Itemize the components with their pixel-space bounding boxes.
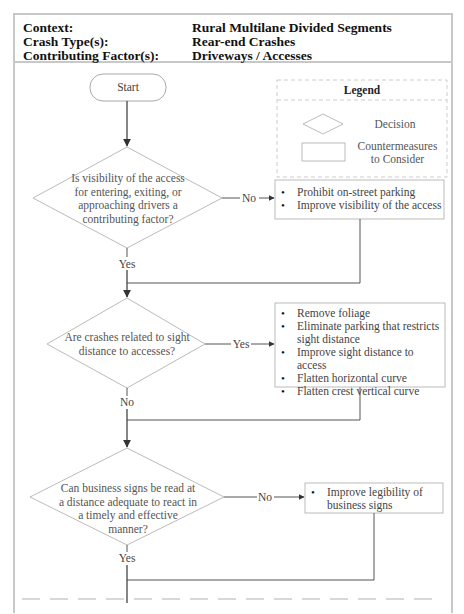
question-line: for entering, exiting, or [48, 186, 208, 200]
question-line: a distance adequate to react in [40, 496, 216, 510]
countermeasure-list-3: Improve legibility of business signs [308, 486, 443, 512]
decision-1-question: Is visibility of the access for entering… [48, 172, 208, 226]
legend-countermeasure-line-2: to Consider [350, 153, 445, 166]
start-label: Start [117, 81, 140, 93]
legend-countermeasure-label: Countermeasures to Consider [350, 140, 445, 166]
question-line: distance to accesses? [52, 345, 202, 359]
legend-countermeasure-icon [302, 143, 345, 161]
question-line: manner? [40, 523, 216, 537]
countermeasure-item: Improve sight distance to access [278, 346, 444, 372]
decision-1-yes-label: Yes [119, 258, 136, 270]
legend-decision-icon [303, 114, 343, 134]
decision-3-no-label: No [258, 491, 272, 503]
decision-3-question: Can business signs be read at a distance… [40, 482, 216, 536]
countermeasure-list-1: Prohibit on-street parking Improve visib… [278, 186, 444, 212]
decision-3-yes-label: Yes [119, 552, 136, 564]
countermeasure-item: Improve legibility of business signs [308, 486, 443, 512]
countermeasure-item: Remove foliage [278, 307, 444, 320]
countermeasure-item: Flatten horizontal curve [278, 372, 444, 385]
legend-title: Legend [277, 84, 447, 97]
decision-2-question: Are crashes related to sight distance to… [52, 331, 202, 358]
legend-countermeasure-line-1: Countermeasures [350, 140, 445, 153]
countermeasure-item: Eliminate parking that restricts sight d… [278, 320, 444, 346]
question-line: a timely and effective [40, 509, 216, 523]
question-line: Is visibility of the access [48, 172, 208, 186]
decision-1-no-label: No [242, 192, 256, 204]
decision-2-yes-label: Yes [233, 338, 250, 350]
decision-2-no-label: No [120, 396, 134, 408]
question-line: Are crashes related to sight [52, 331, 202, 345]
countermeasure-list-2: Remove foliage Eliminate parking that re… [278, 307, 444, 398]
countermeasure-item: Prohibit on-street parking [278, 186, 444, 199]
question-line: approaching drivers a [48, 199, 208, 213]
question-line: Can business signs be read at [40, 482, 216, 496]
countermeasure-item: Improve visibility of the access [278, 199, 444, 212]
countermeasure-item: Flatten crest vertical curve [278, 385, 444, 398]
question-line: contributing factor? [48, 213, 208, 227]
legend-decision-label: Decision [345, 118, 445, 131]
